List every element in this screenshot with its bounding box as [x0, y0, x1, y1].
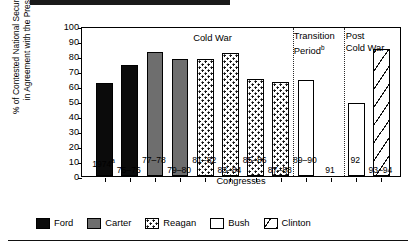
y-axis-tick-mark: [78, 28, 82, 29]
legend-swatch-clinton: [264, 218, 278, 229]
y-axis-tick-label: 80: [57, 53, 79, 62]
legend-item-ford: Ford: [36, 218, 73, 229]
y-axis-tick-label: 60: [57, 83, 79, 92]
legend-swatch-carter: [87, 218, 101, 229]
x-axis-title: Congresses: [81, 176, 401, 186]
y-axis-tick-mark: [78, 103, 82, 104]
y-axis-tick-label: 10: [57, 158, 79, 167]
x-axis-tick-label: 87–88: [254, 166, 306, 175]
page-top-edge: [0, 0, 417, 7]
legend-label-bush: Bush: [228, 218, 249, 228]
x-axis-tick-label: 77–78: [128, 156, 180, 165]
y-axis-tick-mark: [78, 148, 82, 149]
y-axis-tick-mark: [78, 88, 82, 89]
legend-item-bush: Bush: [210, 218, 249, 229]
y-axis-tick-mark: [78, 58, 82, 59]
legend-label-ford: Ford: [54, 218, 73, 228]
y-axis-tick-label: 50: [57, 98, 79, 107]
y-axis-tick-mark: [78, 43, 82, 44]
top-black-bar: [30, 0, 230, 5]
legend-item-carter: Carter: [87, 218, 131, 229]
period-label-post-cold-war: PostCold War: [346, 30, 408, 53]
y-axis-tick-mark: [78, 118, 82, 119]
legend-item-reagan: Reagan: [145, 218, 196, 229]
chart-figure: % of Contested National Security Votes i…: [0, 0, 417, 248]
y-axis-tick-mark: [78, 133, 82, 134]
y-axis-tick-label: 90: [57, 38, 79, 47]
x-axis-tick-label: 85–86: [229, 156, 281, 165]
y-axis-tick-label: 40: [57, 113, 79, 122]
plot-inner: 1009080706050403020100Cold WarTransition…: [82, 28, 400, 176]
y-axis-title-line2: in Agreement with the President: [22, 0, 33, 131]
chart-legend: FordCarterReaganBushClinton: [36, 215, 396, 231]
legend-label-reagan: Reagan: [163, 218, 196, 228]
x-axis-tick-label: 91: [304, 166, 356, 175]
legend-swatch-reagan: [145, 218, 159, 229]
y-axis-title: % of Contested National Security Votes i…: [11, 0, 33, 131]
legend-swatch-ford: [36, 218, 50, 229]
legend-label-clinton: Clinton: [282, 218, 311, 228]
x-axis-tick-label: 79–80: [153, 166, 205, 175]
x-axis-tick-label: 93–94: [354, 166, 406, 175]
x-axis-tick-label: 89–90: [279, 156, 331, 165]
legend-label-carter: Carter: [105, 218, 131, 228]
x-axis-tick-label: 75–76: [103, 166, 155, 175]
x-axis-tick-label: 81–82: [178, 156, 230, 165]
y-axis-tick-label: 70: [57, 68, 79, 77]
period-label-cold-war: Cold War: [168, 32, 258, 44]
bottom-rule: [8, 240, 408, 241]
legend-swatch-bush: [210, 218, 224, 229]
y-axis-tick-label: 30: [57, 128, 79, 137]
y-axis-tick-mark: [78, 73, 82, 74]
x-axis-tick-label: 83–84: [203, 166, 255, 175]
y-axis-tick-label: 100: [57, 23, 79, 32]
y-axis-title-line1: % of Contested National Security Votes: [11, 0, 22, 131]
y-axis-tick-label: 20: [57, 143, 79, 152]
x-axis-tick-label: 92: [329, 156, 381, 165]
legend-item-clinton: Clinton: [264, 218, 311, 229]
y-axis-tick-label: 0: [57, 173, 79, 182]
